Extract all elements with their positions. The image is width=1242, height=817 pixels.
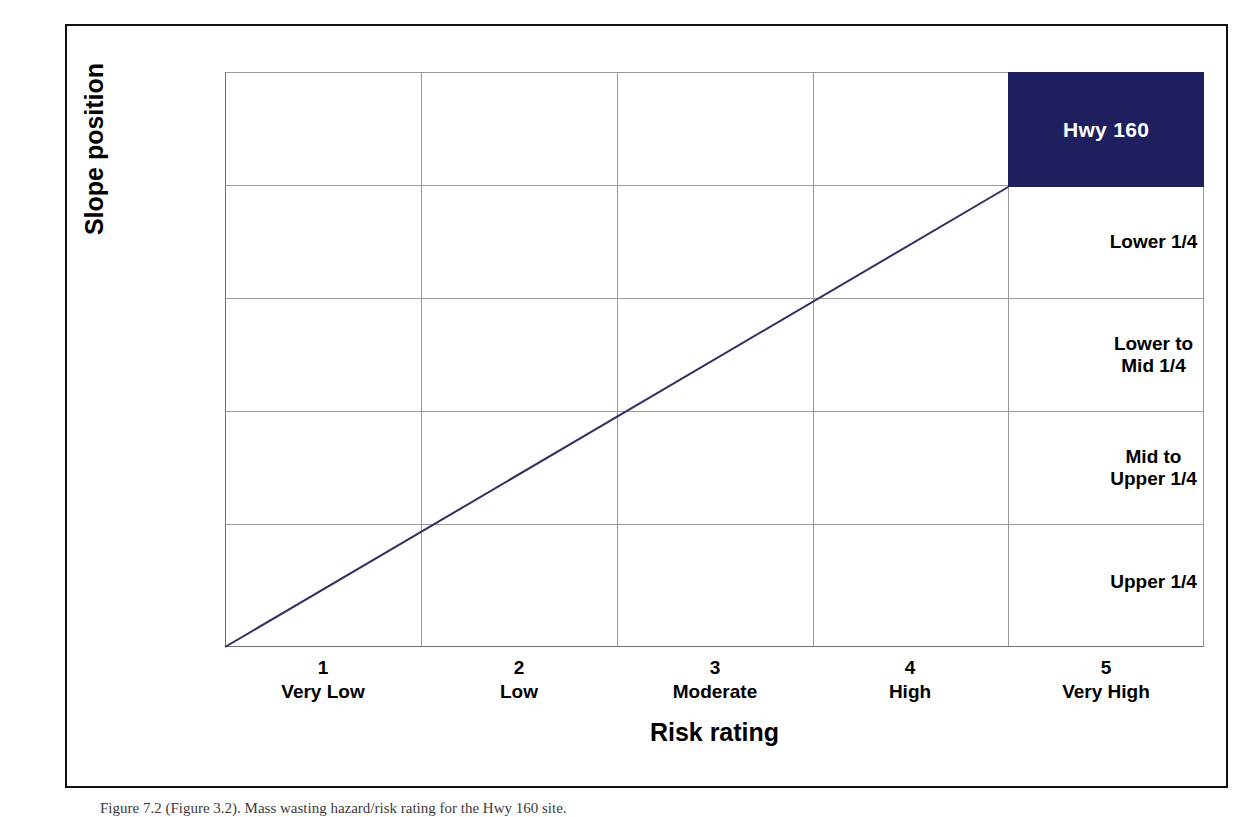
x-tick-label-2: 2 Low [421, 656, 617, 704]
x-tick-number: 3 [617, 656, 813, 680]
figure-caption: Figure 7.2 (Figure 3.2). Mass wasting ha… [100, 800, 1100, 817]
y-axis-title: Slope position [80, 29, 109, 269]
x-tick-name: Very High [1008, 680, 1204, 704]
x-axis-title: Risk rating [225, 718, 1204, 747]
x-tick-name: High [812, 680, 1008, 704]
x-tick-number: 1 [225, 656, 421, 680]
hwy-160-label: Hwy 160 [1008, 118, 1204, 142]
x-tick-number: 4 [812, 656, 1008, 680]
x-tick-name: Moderate [617, 680, 813, 704]
x-tick-label-4: 4 High [812, 656, 1008, 704]
x-tick-name: Low [421, 680, 617, 704]
hwy-160-data-block[interactable]: Hwy 160 [1008, 72, 1204, 187]
x-tick-name: Very Low [225, 680, 421, 704]
plot-area: Hwy 160 [225, 72, 1204, 647]
x-tick-number: 5 [1008, 656, 1204, 680]
figure-frame: Slope position Stream Adjacent Lower 1/4… [65, 24, 1228, 788]
x-tick-label-3: 3 Moderate [617, 656, 813, 704]
x-tick-label-5: 5 Very High [1008, 656, 1204, 704]
x-tick-label-1: 1 Very Low [225, 656, 421, 704]
x-tick-number: 2 [421, 656, 617, 680]
